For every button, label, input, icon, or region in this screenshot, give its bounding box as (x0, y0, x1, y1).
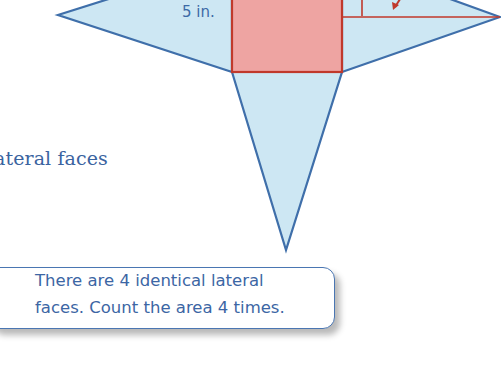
bottom-lateral-face (232, 72, 342, 250)
callout-box: There are 4 identical lateral faces. Cou… (0, 267, 335, 329)
callout-line-2: faces. Count the area 4 times. (35, 298, 285, 317)
square-base (232, 0, 342, 72)
right-lateral-face (342, 0, 500, 72)
callout-line-1: There are 4 identical lateral (35, 271, 264, 290)
dimension-label: 5 in. (182, 3, 215, 21)
body-text-fragment: ateral faces (0, 147, 108, 169)
